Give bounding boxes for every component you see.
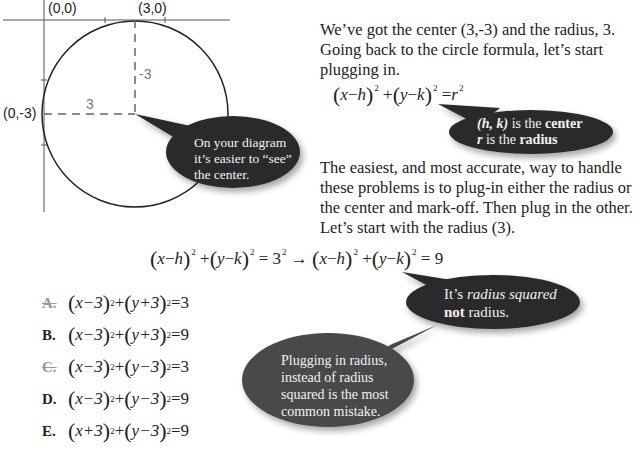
center-bubble-text: On your diagram it’s easier to “see” the… <box>194 135 292 183</box>
mistake-bubble-text: Plugging in radius, instead of radius sq… <box>281 352 389 420</box>
vertical-dimension-label: -3 <box>139 66 151 82</box>
horizontal-dimension-label: 3 <box>86 96 94 112</box>
choice-a[interactable]: A. (x−3)2+(y+3)2=3 <box>42 290 189 316</box>
choice-e[interactable]: E. (x+3)2+(y−3)2=9 <box>42 418 189 444</box>
choice-b[interactable]: B. (x−3)2+(y+3)2=9 <box>42 322 189 348</box>
origin-label: (0,0) <box>48 0 77 16</box>
left-point-label: (0,-3) <box>3 105 36 121</box>
worked-equation: (x−h)2 +(y−k)2 = 32 → (x−h)2 +(y−k)2 = 9 <box>150 246 443 272</box>
choice-c[interactable]: C. (x−3)2+(y−3)2=3 <box>42 354 189 380</box>
top-point-label: (3,0) <box>138 0 167 16</box>
explanation-paragraph: The easiest, and most accurate, way to h… <box>320 158 633 238</box>
radius-bubble-text: It’s radius squared not radius. <box>444 285 557 321</box>
formula-bubble-text: (h, k) is the center r is the radius <box>477 116 582 148</box>
intro-paragraph: We’ve got the center (3,-3) and the radi… <box>320 20 615 80</box>
circle-formula: (x−h)2 +(y−k)2 =r2 <box>333 82 463 108</box>
choice-d[interactable]: D. (x−3)2+(y−3)2=9 <box>42 386 189 412</box>
